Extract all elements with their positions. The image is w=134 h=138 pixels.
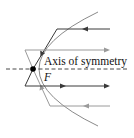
focus-to-upper-ray xyxy=(25,50,33,69)
arrow-icon xyxy=(60,84,66,89)
parabola-diagram: Axis of symmetry F xyxy=(0,0,134,138)
arrow-icon xyxy=(104,48,110,53)
arrow-icon xyxy=(83,104,89,109)
focus-to-lower-ray xyxy=(25,69,33,86)
axis-of-symmetry-label: Axis of symmetry xyxy=(44,55,127,68)
focus-label: F xyxy=(43,71,52,83)
arrow-icon xyxy=(82,27,88,32)
arrow-icon xyxy=(104,84,110,89)
focus-point xyxy=(30,66,36,72)
